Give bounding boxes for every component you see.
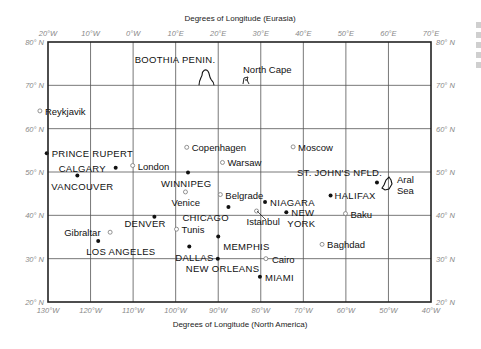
bottom-tick-label: 70°W: [294, 306, 313, 315]
city-label: YORK: [287, 218, 315, 229]
edge-mark: [476, 52, 481, 58]
top-tick-label: 70°E: [423, 29, 440, 38]
bottom-tick-label: 100°W: [164, 306, 188, 315]
left-lat-label: 20° N: [24, 298, 44, 307]
city-label: VANCOUVER: [51, 181, 113, 192]
right-lat-label: 60° N: [436, 125, 455, 134]
top-tick-label: 40°E: [295, 29, 312, 38]
edge-mark: [476, 62, 481, 68]
edge-mark: [476, 22, 481, 28]
city-marker-north-america: [375, 180, 379, 184]
city-marker-north-america: [226, 205, 230, 209]
city-label: WINNIPEG: [161, 178, 211, 189]
city-marker-eurasia: [185, 145, 189, 149]
city-marker-eurasia: [291, 145, 295, 149]
top-tick-label: 60°E: [380, 29, 397, 38]
city-label: London: [138, 161, 170, 172]
city-label: Tunis: [182, 224, 205, 235]
top-axis-title: Degrees of Longitude (Eurasia): [184, 14, 296, 23]
bottom-tick-label: 130°W: [37, 306, 61, 315]
aral-sea-outline: [382, 177, 392, 190]
bottom-tick-label: 50°W: [379, 306, 398, 315]
city-label: Warsaw: [227, 157, 261, 168]
city-marker-north-america: [187, 245, 191, 249]
city-marker-north-america: [216, 235, 220, 239]
right-lat-label: 40° N: [436, 211, 455, 220]
bottom-tick-label: 90°W: [209, 306, 228, 315]
city-marker-eurasia: [183, 190, 187, 194]
aral-sea-label: Sea: [397, 185, 415, 196]
city-marker-north-america: [216, 257, 220, 261]
city-marker-north-america: [263, 200, 267, 204]
cities: ReykjavikPRINCE RUPERTCALGARYLondonVANCO…: [38, 106, 382, 283]
city-label: Gibraltar: [64, 227, 100, 238]
city-marker-eurasia: [131, 164, 135, 168]
city-marker-north-america: [75, 173, 79, 177]
bottom-tick-label: 60°W: [337, 306, 356, 315]
city-marker-eurasia: [108, 230, 112, 234]
boothia-peninsula-outline: [199, 70, 214, 85]
left-lat-label: 80° N: [25, 38, 44, 47]
city-label: MEMPHIS: [223, 241, 269, 252]
city-label: Cairo: [272, 254, 295, 265]
top-tick-label: 0°W: [126, 29, 141, 38]
city-marker-north-america: [258, 275, 262, 279]
city-marker-north-america: [114, 166, 118, 170]
bottom-axis-title: Degrees of Longitude (North America): [173, 320, 308, 329]
boothia-peninsula-label: BOOTHIA PENIN.: [135, 54, 216, 65]
city-marker-eurasia: [38, 109, 42, 113]
north-cape-outline: [243, 77, 249, 84]
top-tick-label: 10°W: [81, 29, 100, 38]
left-lat-label: 50° N: [25, 168, 44, 177]
bottom-tick-label: 40°W: [422, 306, 441, 315]
city-marker-eurasia: [218, 193, 222, 197]
city-label: Moscow: [298, 142, 333, 153]
bottom-tick-label: 110°W: [122, 306, 145, 315]
city-marker-north-america: [186, 170, 190, 174]
city-label: LOS ANGELES: [86, 246, 155, 257]
city-label: ST. JOHN'S NFLD.: [297, 167, 382, 178]
top-tick-label: 10°E: [167, 29, 184, 38]
city-label: DENVER: [124, 218, 165, 229]
top-tick-label: 50°E: [338, 29, 355, 38]
city-marker-eurasia: [175, 227, 179, 231]
city-label: Belgrade: [225, 190, 263, 201]
top-tick-label: 30°E: [253, 29, 270, 38]
right-lat-label: 20° N: [435, 298, 455, 307]
city-label: Reykjavik: [45, 106, 86, 117]
right-lat-label: 30° N: [436, 255, 455, 264]
city-marker-north-america: [96, 239, 100, 243]
edge-marks: [476, 22, 481, 72]
bottom-tick-label: 80°W: [252, 306, 271, 315]
city-label: NEW ORLEANS: [186, 263, 260, 274]
bottom-tick-label: 120°W: [79, 306, 103, 315]
city-label: DALLAS: [175, 252, 213, 263]
city-label: NIAGARA: [270, 197, 315, 208]
city-marker-eurasia: [220, 160, 224, 164]
right-lat-label: 50° N: [436, 168, 455, 177]
edge-mark: [476, 32, 481, 38]
city-label: Copenhagen: [192, 142, 246, 153]
city-label: CALGARY: [59, 163, 107, 174]
right-lat-label: 70° N: [436, 81, 455, 90]
city-marker-eurasia: [264, 257, 268, 261]
city-label: Baghdad: [327, 239, 365, 250]
city-label: Baku: [350, 209, 372, 220]
aral-sea-label: Aral: [397, 174, 414, 185]
city-label: MIAMI: [265, 272, 294, 283]
city-label: CHICAGO: [182, 212, 228, 223]
city-marker-north-america: [284, 210, 288, 214]
city-label: NEW: [291, 207, 314, 218]
city-label: HALIFAX: [335, 190, 377, 201]
city-marker-eurasia: [343, 212, 347, 216]
left-lat-label: 70° N: [25, 81, 44, 90]
left-lat-label: 40° N: [25, 211, 44, 220]
top-tick-label: 20°E: [209, 29, 227, 38]
latitude-comparison-map: Degrees of Longitude (Eurasia) Degrees o…: [0, 0, 481, 349]
city-marker-north-america: [329, 193, 333, 197]
north-cape-label: North Cape: [243, 64, 292, 75]
right-lat-label: 80° N: [436, 38, 455, 47]
edge-mark: [476, 42, 481, 48]
left-lat-label: 60° N: [25, 125, 44, 134]
left-lat-label: 30° N: [25, 255, 44, 264]
